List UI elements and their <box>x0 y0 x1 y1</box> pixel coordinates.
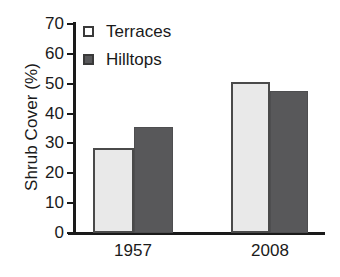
legend-item-label: Hilltops <box>106 51 162 68</box>
bar-2008-terraces <box>231 82 270 233</box>
x-axis-tick-label-1957: 1957 <box>88 241 178 261</box>
bar-2008-hilltops <box>270 91 308 233</box>
legend-item-label: Terraces <box>106 23 171 40</box>
x-axis-tick-label-2008: 2008 <box>225 241 315 261</box>
chart-legend: TerracesHilltops <box>83 20 171 76</box>
bar-1957-hilltops <box>134 127 173 233</box>
bar-1957-terraces <box>93 148 134 233</box>
shrub-cover-bar-chart: Shrub Cover (%) 706050403020100 19572008… <box>0 0 340 277</box>
legend-item-hilltops: Hilltops <box>83 48 171 70</box>
legend-item-terraces: Terraces <box>83 20 171 42</box>
light-square-swatch <box>83 26 94 37</box>
dark-square-swatch <box>83 54 94 65</box>
